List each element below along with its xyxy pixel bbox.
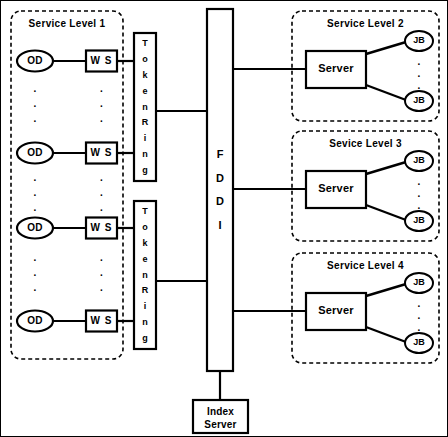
index-server-line2: Server bbox=[204, 419, 236, 430]
link-server2-jb2 bbox=[366, 85, 406, 100]
link-server2-jb1 bbox=[366, 42, 406, 54]
ws-ellipsis-dot: . bbox=[86, 203, 117, 213]
token-ring-2-letter: o bbox=[142, 223, 148, 232]
service-level-4-title: Service Level 4 bbox=[292, 261, 439, 271]
token-ring-2-letter: T bbox=[142, 207, 148, 216]
od-ellipsis-dot: . bbox=[17, 114, 53, 124]
link-server3-jb1 bbox=[366, 162, 406, 174]
index-server-line1: Index bbox=[207, 406, 234, 417]
index-server-label: IndexServer bbox=[193, 406, 248, 431]
jb-ellipsis-dot-level-3: . bbox=[405, 177, 433, 187]
token-ring-1-letter: g bbox=[142, 166, 148, 175]
jb-ellipsis-dot-level-2: . bbox=[405, 57, 433, 67]
jb-node-level-3-2-label: JB bbox=[405, 216, 433, 225]
od-node-2-label: OD bbox=[17, 148, 53, 158]
od-ellipsis-dot: . bbox=[17, 84, 53, 94]
fddi-letter: D bbox=[216, 173, 224, 184]
token-ring-2-label: T o k e n R i n g bbox=[134, 207, 156, 343]
link-server3-jb2 bbox=[366, 205, 406, 220]
od-node-4-label: OD bbox=[17, 316, 53, 326]
token-ring-2-letter: n bbox=[142, 318, 148, 327]
od-ellipsis-dot: . bbox=[17, 173, 53, 183]
token-ring-2-letter: R bbox=[142, 286, 149, 295]
token-ring-1-letter: i bbox=[144, 134, 147, 143]
link-server4-jb2 bbox=[366, 327, 406, 342]
jb-ellipsis-dot-level-2: . bbox=[405, 81, 433, 91]
od-ellipsis-dot: . bbox=[17, 188, 53, 198]
ws-ellipsis-dot: . bbox=[86, 283, 117, 293]
service-level-3-title: Sevice Level 3 bbox=[292, 139, 439, 149]
fddi-backbone-label: F D D I bbox=[207, 149, 233, 231]
jb-ellipsis-dot-level-2: . bbox=[405, 69, 433, 79]
jb-ellipsis-dot-level-3: . bbox=[405, 189, 433, 199]
jb-node-level-2-1-label: JB bbox=[405, 36, 433, 45]
ws-ellipsis-dot: . bbox=[86, 99, 117, 109]
od-ellipsis-dot: . bbox=[17, 253, 53, 263]
ws-node-1-label: W S bbox=[86, 56, 117, 66]
ws-node-2-label: W S bbox=[86, 148, 117, 158]
ws-node-4-label: W S bbox=[86, 316, 117, 326]
server-label-level-2: Server bbox=[306, 63, 366, 74]
token-ring-2-letter: i bbox=[144, 302, 147, 311]
jb-ellipsis-dot-level-4: . bbox=[405, 311, 433, 321]
fddi-letter: I bbox=[218, 220, 221, 231]
ws-ellipsis-dot: . bbox=[86, 268, 117, 278]
token-ring-1-letter: T bbox=[142, 39, 148, 48]
jb-node-level-4-2-label: JB bbox=[405, 338, 433, 347]
token-ring-1-label: T o k e n R i n g bbox=[134, 39, 156, 175]
fddi-letter: F bbox=[217, 149, 224, 160]
token-ring-1-letter: e bbox=[142, 87, 147, 96]
token-ring-1-letter: k bbox=[142, 71, 147, 80]
ws-ellipsis-dot: . bbox=[86, 84, 117, 94]
jb-ellipsis-dot-level-4: . bbox=[405, 299, 433, 309]
service-level-2-title: Service Level 2 bbox=[292, 19, 439, 29]
service-level-1-title: Service Level 1 bbox=[11, 19, 123, 29]
server-label-level-4: Server bbox=[306, 305, 366, 316]
token-ring-1-letter: n bbox=[142, 150, 148, 159]
ws-ellipsis-dot: . bbox=[86, 188, 117, 198]
fddi-letter: D bbox=[216, 196, 224, 207]
token-ring-1-letter: n bbox=[142, 103, 148, 112]
jb-ellipsis-dot-level-3: . bbox=[405, 201, 433, 211]
ws-node-3-label: W S bbox=[86, 223, 117, 233]
od-node-3-label: OD bbox=[17, 223, 53, 233]
token-ring-2-letter: g bbox=[142, 334, 148, 343]
od-ellipsis-dot: . bbox=[17, 283, 53, 293]
network-diagram-canvas: Service Level 1 OD OD OD OD W S W S W S … bbox=[0, 0, 448, 437]
jb-ellipsis-dot-level-4: . bbox=[405, 323, 433, 333]
od-node-1-label: OD bbox=[17, 56, 53, 66]
server-label-level-3: Server bbox=[306, 183, 366, 194]
ws-ellipsis-dot: . bbox=[86, 114, 117, 124]
od-ellipsis-dot: . bbox=[17, 203, 53, 213]
ws-ellipsis-dot: . bbox=[86, 173, 117, 183]
jb-node-level-2-2-label: JB bbox=[405, 96, 433, 105]
token-ring-2-letter: k bbox=[142, 239, 147, 248]
link-server4-jb1 bbox=[366, 284, 406, 296]
od-ellipsis-dot: . bbox=[17, 99, 53, 109]
jb-node-level-3-1-label: JB bbox=[405, 156, 433, 165]
token-ring-1-letter: R bbox=[142, 118, 149, 127]
od-ellipsis-dot: . bbox=[17, 268, 53, 278]
token-ring-1-letter: o bbox=[142, 55, 148, 64]
ws-ellipsis-dot: . bbox=[86, 253, 117, 263]
jb-node-level-4-1-label: JB bbox=[405, 278, 433, 287]
token-ring-2-letter: n bbox=[142, 271, 148, 280]
token-ring-2-letter: e bbox=[142, 255, 147, 264]
